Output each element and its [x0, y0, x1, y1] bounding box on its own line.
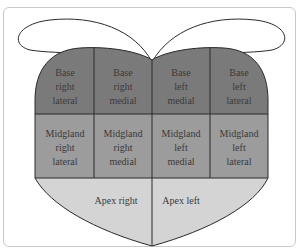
zone-apex-right: Apex right	[94, 195, 137, 206]
svg-text:right: right	[56, 81, 75, 92]
svg-text:left: left	[232, 81, 246, 92]
svg-text:right: right	[114, 81, 133, 92]
svg-text:lateral: lateral	[227, 95, 252, 106]
svg-text:medial: medial	[109, 156, 136, 167]
svg-text:Base: Base	[229, 67, 249, 78]
svg-text:right: right	[56, 142, 75, 153]
svg-text:left: left	[174, 142, 188, 153]
svg-text:left: left	[232, 142, 246, 153]
svg-text:Base: Base	[113, 67, 133, 78]
zone-base-right-lateral: Base right lateral	[53, 67, 78, 106]
svg-text:Midgland: Midgland	[104, 128, 143, 139]
svg-text:Midgland: Midgland	[162, 128, 201, 139]
svg-text:medial: medial	[109, 95, 136, 106]
prostate-zone-diagram: Base right lateral Base right medial Bas…	[0, 0, 300, 250]
svg-text:medial: medial	[167, 95, 194, 106]
svg-text:Midgland: Midgland	[46, 128, 85, 139]
svg-text:Base: Base	[171, 67, 191, 78]
zone-apex-left: Apex left	[162, 195, 200, 206]
svg-text:right: right	[114, 142, 133, 153]
svg-text:lateral: lateral	[227, 156, 252, 167]
svg-text:Midgland: Midgland	[220, 128, 259, 139]
svg-text:Base: Base	[55, 67, 75, 78]
svg-text:lateral: lateral	[53, 156, 78, 167]
svg-text:left: left	[174, 81, 188, 92]
svg-text:medial: medial	[167, 156, 194, 167]
svg-text:lateral: lateral	[53, 95, 78, 106]
